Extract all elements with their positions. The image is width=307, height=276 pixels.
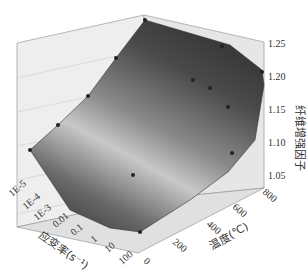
svg-text:1.20: 1.20	[268, 71, 286, 82]
svg-text:1.25: 1.25	[268, 38, 286, 49]
z-axis-label: 纤维增强因子	[293, 105, 307, 171]
z-axis-ticks: 1.25 1.20 1.15 1.10 1.05	[268, 38, 286, 181]
svg-text:1.10: 1.10	[268, 137, 286, 148]
svg-text:0: 0	[142, 255, 153, 267]
svg-text:800: 800	[261, 186, 280, 204]
svg-text:1.05: 1.05	[268, 170, 286, 181]
surface-chart: 1.25 1.20 1.15 1.10 1.05 纤维增强因子 1E-5 1E-…	[0, 0, 307, 276]
svg-text:200: 200	[171, 236, 190, 254]
svg-text:1.15: 1.15	[268, 104, 286, 115]
